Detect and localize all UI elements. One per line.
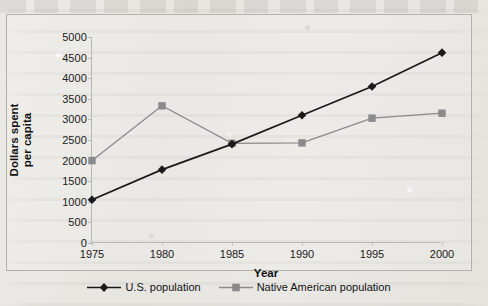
data-point-native-american-population-1990[interactable]	[298, 139, 305, 146]
square-marker-icon	[219, 282, 253, 293]
legend-label-us-population: U.S. population	[125, 281, 200, 293]
data-point-native-american-population-1995[interactable]	[368, 114, 375, 121]
x-axis-tick-1990: 1990	[290, 248, 314, 260]
data-point-native-american-population-1980[interactable]	[158, 102, 165, 109]
series-lines-and-markers	[92, 37, 442, 243]
diamond-marker-icon	[87, 282, 121, 293]
legend-item-native-american-population[interactable]: Native American population	[219, 281, 391, 293]
x-axis-title: Year	[91, 267, 441, 279]
series-line-u-s-population	[92, 53, 442, 200]
chart-frame: Dollars spent per capita 050010001500200…	[6, 14, 472, 271]
data-point-u-s-population-1980[interactable]	[158, 165, 167, 174]
x-axis-tick-2000: 2000	[430, 248, 454, 260]
y-axis-title-line2: per capita	[21, 113, 33, 167]
legend-label-native-american-population: Native American population	[257, 281, 391, 293]
scan-top-text-fragment	[0, 0, 488, 13]
chart-legend: U.S. population Native American populati…	[6, 281, 472, 293]
data-point-native-american-population-2000[interactable]	[438, 110, 445, 117]
data-point-u-s-population-1990[interactable]	[298, 111, 307, 120]
series-native-american-population	[88, 102, 445, 164]
data-point-u-s-population-2000[interactable]	[438, 48, 447, 57]
data-point-native-american-population-1975[interactable]	[88, 157, 95, 164]
y-axis-title-line1: Dollars spent	[8, 104, 20, 177]
series-line-native-american-population	[92, 106, 442, 161]
x-axis-tick-1995: 1995	[360, 248, 384, 260]
plot-area: 0500100015002000250030003500400045005000…	[91, 37, 441, 243]
x-axis-tick-1985: 1985	[220, 248, 244, 260]
y-axis-title: Dollars spent per capita	[8, 104, 34, 177]
series-u-s-population	[88, 48, 447, 204]
x-axis-tick-1980: 1980	[150, 248, 174, 260]
x-axis-tickmark-2000	[442, 242, 443, 246]
x-axis-tick-1975: 1975	[80, 248, 104, 260]
data-point-u-s-population-1995[interactable]	[368, 82, 377, 91]
legend-item-us-population[interactable]: U.S. population	[87, 281, 200, 293]
